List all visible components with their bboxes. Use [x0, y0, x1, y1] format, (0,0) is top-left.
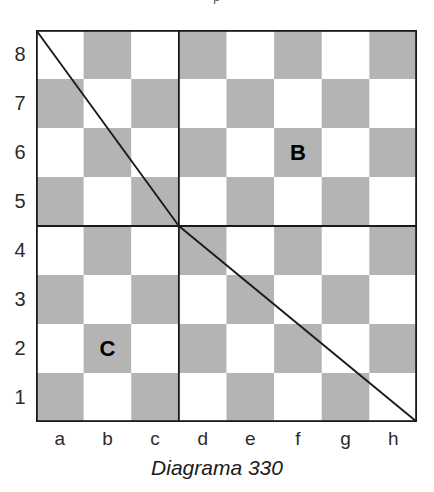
square-marker-b: B: [274, 128, 322, 177]
board-square-a6: [36, 128, 84, 177]
board-square-c8: [131, 30, 179, 79]
board-square-g1: [322, 373, 370, 422]
file-label-a: a: [36, 424, 84, 454]
rank-label-8: 8: [8, 30, 32, 79]
board-square-b3: [84, 275, 132, 324]
board-square-e2: [227, 324, 275, 373]
rank-label-7: 7: [8, 79, 32, 128]
board-square-h3: [369, 275, 417, 324]
diagram-caption: Diagrama 330: [0, 456, 434, 480]
board-square-a3: [36, 275, 84, 324]
board-square-d4: [179, 226, 227, 275]
board-square-h4: [369, 226, 417, 275]
rank-label-5: 5: [8, 177, 32, 226]
board-square-b5: [84, 177, 132, 226]
file-label-f: f: [274, 424, 322, 454]
board-square-f7: [274, 79, 322, 128]
rank-label-axis: 87654321: [8, 30, 32, 422]
board-square-f4: [274, 226, 322, 275]
board-square-d3: [179, 275, 227, 324]
board-square-c1: [131, 373, 179, 422]
board-square-d1: [179, 373, 227, 422]
file-label-axis: abcdefgh: [36, 424, 417, 454]
board-square-f1: [274, 373, 322, 422]
diagram-page: p 87654321 BC abcdefgh Diagrama 330: [0, 0, 434, 492]
file-label-h: h: [369, 424, 417, 454]
board-square-d6: [179, 128, 227, 177]
board-square-d5: [179, 177, 227, 226]
file-label-e: e: [227, 424, 275, 454]
header-fragment-glyph: p: [213, 0, 221, 3]
board-square-a1: [36, 373, 84, 422]
board-square-a2: [36, 324, 84, 373]
board-square-d2: [179, 324, 227, 373]
board-square-c4: [131, 226, 179, 275]
board-square-h8: [369, 30, 417, 79]
file-label-g: g: [322, 424, 370, 454]
board-square-a4: [36, 226, 84, 275]
board-square-e4: [227, 226, 275, 275]
board-square-a5: [36, 177, 84, 226]
rank-label-1: 1: [8, 373, 32, 422]
board-square-g7: [322, 79, 370, 128]
square-marker-c: C: [84, 324, 132, 373]
board-square-h2: [369, 324, 417, 373]
board-square-e8: [227, 30, 275, 79]
board-square-f2: [274, 324, 322, 373]
board-square-c3: [131, 275, 179, 324]
board-square-b4: [84, 226, 132, 275]
board-square-g3: [322, 275, 370, 324]
board-square-f5: [274, 177, 322, 226]
file-label-c: c: [131, 424, 179, 454]
board-square-e7: [227, 79, 275, 128]
board-square-d7: [179, 79, 227, 128]
rank-label-3: 3: [8, 275, 32, 324]
board-square-g6: [322, 128, 370, 177]
board-square-f3: [274, 275, 322, 324]
board-square-d8: [179, 30, 227, 79]
board-square-g4: [322, 226, 370, 275]
file-label-d: d: [179, 424, 227, 454]
board-square-a8: [36, 30, 84, 79]
board-square-f8: [274, 30, 322, 79]
board-square-e1: [227, 373, 275, 422]
board-square-g8: [322, 30, 370, 79]
chessboard: BC: [36, 30, 417, 422]
board-square-b1: [84, 373, 132, 422]
board-square-c7: [131, 79, 179, 128]
board-square-e6: [227, 128, 275, 177]
board-square-b8: [84, 30, 132, 79]
rank-label-2: 2: [8, 324, 32, 373]
board-square-e5: [227, 177, 275, 226]
rank-label-4: 4: [8, 226, 32, 275]
board-square-h7: [369, 79, 417, 128]
board-square-g5: [322, 177, 370, 226]
board-square-h1: [369, 373, 417, 422]
clipped-header-text: p: [0, 0, 434, 12]
rank-label-6: 6: [8, 128, 32, 177]
board-square-h6: [369, 128, 417, 177]
board-square-c2: [131, 324, 179, 373]
board-square-c5: [131, 177, 179, 226]
board-square-h5: [369, 177, 417, 226]
file-label-b: b: [84, 424, 132, 454]
